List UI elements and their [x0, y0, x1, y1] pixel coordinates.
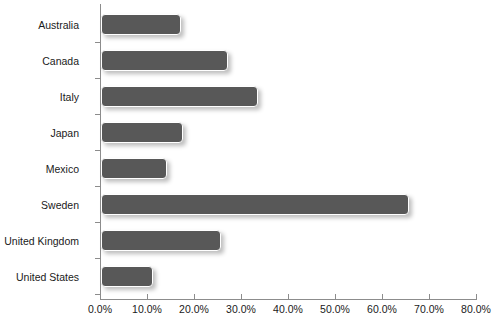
bar-mexico	[101, 158, 167, 179]
x-axis-tick	[429, 294, 430, 300]
x-axis-tick	[194, 294, 195, 300]
y-axis-tick	[95, 186, 101, 187]
bar-row: Japan	[100, 115, 480, 151]
category-label-sweden: Sweden	[0, 187, 79, 223]
bar-row: Italy	[100, 79, 480, 115]
bar-chart: AustraliaCanadaItalyJapanMexicoSwedenUni…	[0, 0, 495, 321]
plot-area: AustraliaCanadaItalyJapanMexicoSwedenUni…	[100, 0, 480, 299]
bar-row: United States	[100, 259, 480, 295]
category-label-united-states: United States	[0, 259, 79, 295]
bar-row: Mexico	[100, 151, 480, 187]
y-axis-tick	[95, 78, 101, 79]
x-axis-tick	[335, 294, 336, 300]
y-axis-tick	[95, 42, 101, 43]
bar-row: Australia	[100, 7, 480, 43]
bar-australia	[101, 14, 181, 35]
y-axis-tick	[95, 114, 101, 115]
bar-row: Sweden	[100, 187, 480, 223]
bar-row: Canada	[100, 43, 480, 79]
category-label-united-kingdom: United Kingdom	[0, 223, 79, 259]
bar-canada	[101, 50, 228, 71]
x-axis-tick	[476, 294, 477, 300]
x-axis-tick	[288, 294, 289, 300]
category-label-italy: Italy	[0, 79, 79, 115]
y-axis-tick	[95, 222, 101, 223]
bar-sweden	[101, 194, 409, 215]
bar-japan	[101, 122, 183, 143]
category-label-japan: Japan	[0, 115, 79, 151]
category-label-mexico: Mexico	[0, 151, 79, 187]
y-axis-tick	[95, 258, 101, 259]
category-label-canada: Canada	[0, 43, 79, 79]
x-axis-tick	[382, 294, 383, 300]
bar-united-states	[101, 266, 153, 287]
category-label-australia: Australia	[0, 7, 79, 43]
x-axis-tick-label: 80.0%	[446, 303, 495, 315]
bar-row: United Kingdom	[100, 223, 480, 259]
x-axis-tick	[241, 294, 242, 300]
bar-united-kingdom	[101, 230, 221, 251]
x-axis-tick	[147, 294, 148, 300]
bar-italy	[101, 86, 258, 107]
y-axis-tick	[95, 150, 101, 151]
x-axis-tick	[100, 294, 101, 300]
